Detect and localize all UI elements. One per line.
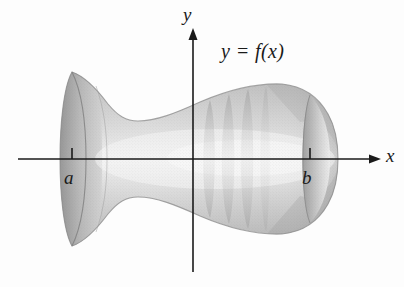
tick-label-b: b xyxy=(302,167,312,189)
figure-canvas xyxy=(0,0,404,287)
tick-label-a: a xyxy=(64,167,74,189)
x-axis-arrowhead xyxy=(369,155,381,164)
curve-equation-label: y = f(x) xyxy=(221,40,284,63)
solid-body xyxy=(50,55,350,265)
y-axis-arrowhead xyxy=(189,28,198,40)
y-axis-label: y xyxy=(183,4,191,26)
solid-of-revolution xyxy=(50,55,350,265)
x-axis-label: x xyxy=(386,145,394,167)
solid-of-revolution-figure: y x a b y = f(x) xyxy=(0,0,404,287)
halftone-texture xyxy=(50,55,350,265)
